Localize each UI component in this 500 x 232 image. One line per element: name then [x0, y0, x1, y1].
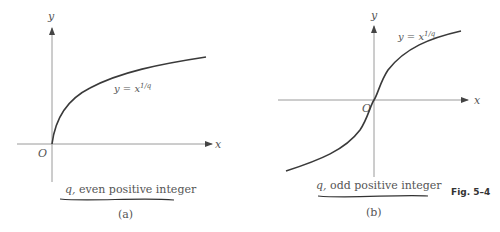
caption: q, even positive integer [65, 183, 197, 196]
figure-number: Fig. 5–4 [451, 187, 490, 197]
curve-even-root [52, 57, 206, 144]
caption-underline [318, 196, 428, 197]
figure-5-4: x y O y = x1/q q, even positive integer … [0, 0, 500, 232]
caption-underline [60, 199, 174, 200]
panel-a: x y O y = x1/q q, even positive integer … [17, 10, 222, 221]
y-axis-label: y [370, 9, 378, 22]
caption: q, odd positive integer [316, 179, 442, 192]
panel-tag: (a) [118, 208, 133, 221]
x-axis-label: x [474, 94, 481, 107]
origin-label: O [38, 147, 47, 160]
panel-tag: (b) [366, 206, 382, 219]
curve-label: y = x1/q [113, 82, 152, 94]
y-axis-label: y [47, 10, 55, 23]
x-axis-label: x [215, 138, 222, 151]
